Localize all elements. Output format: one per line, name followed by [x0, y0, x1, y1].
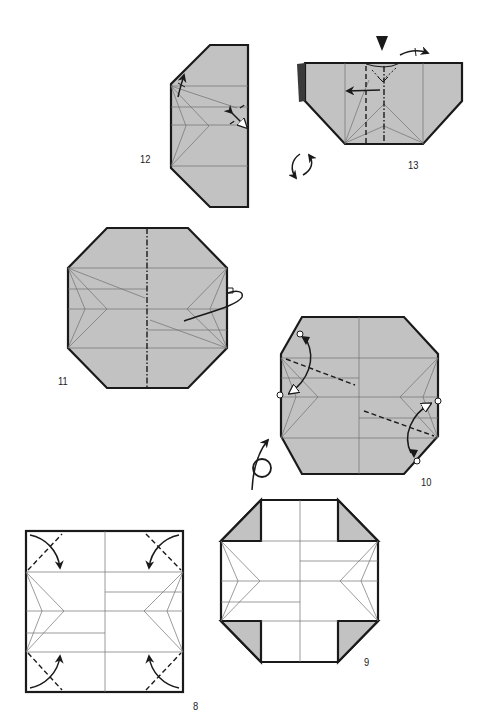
step-number-9: 9 — [364, 656, 369, 668]
rotate-icon — [292, 154, 311, 178]
step-11 — [68, 228, 242, 388]
step-8 — [26, 531, 183, 692]
step-number-8: 8 — [193, 700, 198, 712]
step-10 — [252, 317, 441, 490]
step-number-10: 10 — [421, 476, 431, 488]
paper-shape — [171, 45, 248, 207]
fold-behind-icon — [400, 51, 428, 55]
step-number-12: 12 — [140, 153, 150, 165]
paper-shape — [26, 531, 183, 692]
step-number-13: 13 — [408, 159, 418, 171]
diagram-canvas — [0, 0, 487, 725]
push-arrow-icon — [376, 36, 388, 51]
step-number-11: 11 — [58, 375, 68, 387]
step-9 — [221, 500, 378, 662]
step-12 — [171, 45, 248, 207]
step-13 — [292, 36, 462, 178]
fold-left-arrow-icon — [347, 90, 380, 91]
turn-over-icon — [252, 440, 271, 490]
